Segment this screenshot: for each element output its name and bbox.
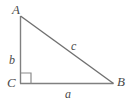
side-label-b: b [9,54,15,66]
triangle-side-c-line [21,16,114,84]
vertex-label-b: B [117,75,125,88]
vertex-label-c: C [7,76,16,89]
side-label-c: c [71,40,76,52]
right-triangle-figure: A B C a b c [0,0,135,106]
vertex-label-a: A [12,3,20,16]
right-angle-square-icon [21,73,31,84]
side-label-a: a [65,88,71,100]
